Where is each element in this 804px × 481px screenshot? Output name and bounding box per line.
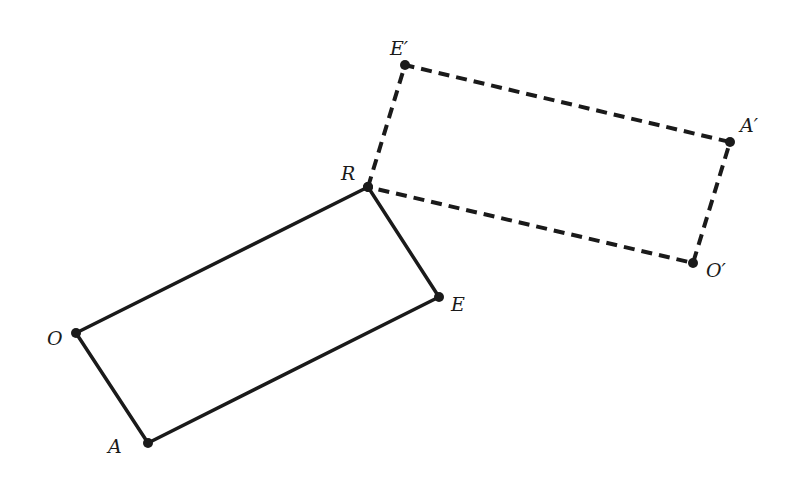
rotation-diagram: REAOE′A′O′ [0,0,804,481]
vertex-point [400,60,410,70]
original-rectangle [76,187,439,443]
vertex-point [725,137,735,147]
vertex-label: O′ [706,259,727,281]
vertex-point [143,438,153,448]
vertex-label: E′ [389,37,409,59]
vertex-labels: REAOE′A′O′ [47,37,759,457]
vertex-label: O [47,327,63,349]
rotated-rectangle [368,65,730,263]
vertex-label: E [450,293,465,315]
vertex-label: A [106,435,122,457]
vertex-point [434,292,444,302]
vertex-label: A′ [738,114,759,136]
vertex-point [363,182,373,192]
vertex-label: R [340,162,355,184]
vertex-point [71,328,81,338]
vertex-point [688,258,698,268]
